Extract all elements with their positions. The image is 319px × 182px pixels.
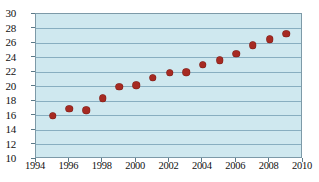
- gridline: [36, 28, 301, 29]
- x-tick-label-2000: 2000: [125, 160, 145, 171]
- gridline: [36, 57, 301, 58]
- gridline: [36, 43, 301, 44]
- x-tick-label-2006: 2006: [225, 160, 245, 171]
- gridline: [36, 130, 301, 131]
- y-tick-label-24: 24: [5, 51, 16, 63]
- data-point: [150, 75, 157, 82]
- data-point: [66, 106, 73, 113]
- y-tick-label-30: 30: [5, 7, 16, 19]
- x-tick-label-2002: 2002: [159, 160, 179, 171]
- x-tick-label-2010: 2010: [292, 160, 312, 171]
- data-point: [100, 95, 107, 102]
- y-tick-label-16: 16: [5, 109, 16, 121]
- data-point: [183, 69, 190, 76]
- data-point: [283, 30, 290, 37]
- data-point: [49, 112, 56, 119]
- data-point: [83, 107, 90, 114]
- plot-area: [35, 13, 302, 158]
- data-point: [133, 82, 140, 89]
- x-tick-label-1996: 1996: [58, 160, 78, 171]
- y-tick-label-18: 18: [5, 94, 16, 106]
- x-tick-label-2008: 2008: [259, 160, 279, 171]
- data-point: [233, 51, 240, 58]
- x-tick-label-2004: 2004: [192, 160, 212, 171]
- y-tick-label-12: 12: [5, 138, 16, 150]
- y-tick-label-14: 14: [5, 123, 16, 135]
- gridline: [36, 115, 301, 116]
- data-point: [266, 36, 273, 43]
- x-tick-label-1994: 1994: [25, 160, 45, 171]
- y-tick-label-28: 28: [5, 22, 16, 34]
- data-point: [166, 69, 173, 76]
- x-tick-label-1998: 1998: [92, 160, 112, 171]
- data-point: [200, 62, 207, 69]
- y-tick-label-22: 22: [5, 65, 16, 77]
- gridline: [36, 86, 301, 87]
- y-tick-label-20: 20: [5, 80, 16, 92]
- gridline: [36, 101, 301, 102]
- data-point: [250, 42, 257, 49]
- y-tick-label-10: 10: [5, 152, 16, 164]
- data-point: [116, 83, 123, 90]
- y-tick-label-26: 26: [5, 36, 16, 48]
- data-point: [216, 57, 223, 64]
- scatter-chart: 1012141618202224262830 19941996199820002…: [0, 0, 319, 182]
- gridline: [36, 144, 301, 145]
